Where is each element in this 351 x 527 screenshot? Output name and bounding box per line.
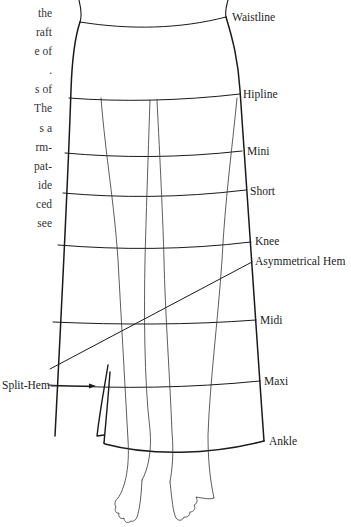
short-line	[63, 190, 246, 196]
label-hipline: Hipline	[243, 89, 278, 101]
label-ankle: Ankle	[269, 436, 297, 448]
right-leg-outer	[208, 98, 237, 498]
split-hem-flap	[97, 365, 108, 436]
asymmetrical-hem-line	[50, 262, 252, 369]
label-knee: Knee	[255, 236, 279, 248]
skirt-left-edge	[55, 22, 80, 436]
label-split-hem: Split-Hem	[2, 380, 50, 392]
arrow-head-icon	[89, 384, 96, 389]
torso-right-edge	[226, 0, 228, 17]
hipline-line	[69, 94, 240, 100]
skirt-right-edge	[226, 17, 264, 441]
midi-line	[53, 320, 256, 324]
label-midi: Midi	[260, 315, 282, 327]
right-foot	[170, 482, 214, 520]
mini-line	[65, 151, 242, 157]
label-maxi: Maxi	[264, 376, 288, 388]
label-asymmetrical-hem: Asymmetrical Hem	[255, 256, 345, 268]
right-leg-inner	[157, 100, 173, 482]
left-foot	[115, 480, 142, 522]
label-short: Short	[250, 186, 275, 198]
torso-left-edge	[79, 0, 81, 22]
waistline-line	[80, 17, 226, 27]
label-waistline: Waistline	[232, 12, 275, 24]
knee-line	[58, 242, 251, 248]
label-mini: Mini	[247, 146, 269, 158]
